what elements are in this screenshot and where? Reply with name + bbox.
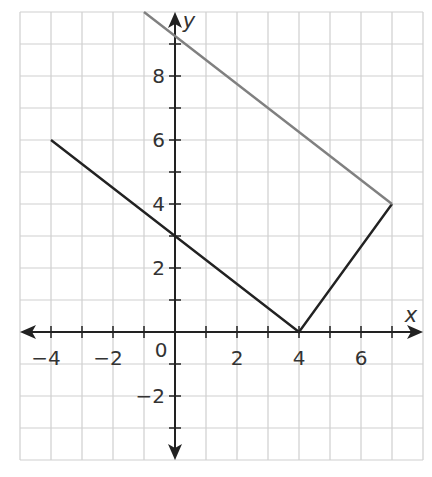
- origin-label: 0: [155, 338, 168, 362]
- x-tick-label: 6: [355, 346, 368, 370]
- y-tick-label: 2: [152, 256, 165, 280]
- x-tick-label: −4: [31, 346, 60, 370]
- tick-labels: −4−2246−224680xy: [31, 9, 418, 408]
- coordinate-plane: −4−2246−224680xy: [0, 0, 432, 477]
- x-axis-label: x: [404, 303, 418, 327]
- y-tick-label: 6: [152, 128, 165, 152]
- x-tick-label: −2: [93, 346, 122, 370]
- y-tick-label: 4: [152, 192, 165, 216]
- x-tick-label: 2: [231, 346, 244, 370]
- y-tick-label: −2: [136, 384, 165, 408]
- x-tick-label: 4: [293, 346, 306, 370]
- grid: [20, 12, 423, 460]
- y-axis-label: y: [182, 9, 196, 33]
- y-tick-label: 8: [152, 64, 165, 88]
